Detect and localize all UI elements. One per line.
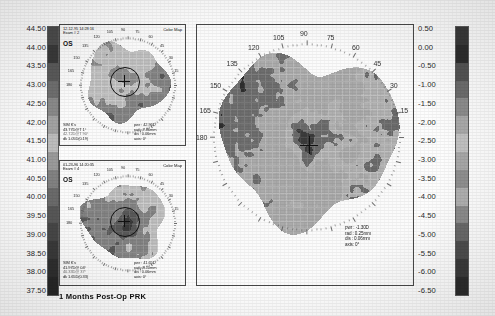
color-swatch bbox=[456, 27, 468, 45]
meridian-label: 165 bbox=[68, 206, 74, 211]
meridian-label: 165 bbox=[200, 107, 211, 114]
readout-axis: axis: 0° bbox=[134, 137, 156, 142]
scale-tick: 44.50 bbox=[14, 24, 46, 33]
left-color-bar bbox=[47, 26, 59, 296]
meridian-tick bbox=[146, 127, 147, 129]
meridian-label: 105 bbox=[107, 167, 113, 172]
meridian-tick bbox=[170, 104, 172, 105]
meridian-tick bbox=[162, 254, 164, 256]
meridian-tick bbox=[83, 68, 85, 69]
scale-tick: 39.50 bbox=[14, 211, 46, 220]
panel-postop-axial-map[interactable]: 01-23-96 14:20:35 Exam # 4 OS Color Map … bbox=[59, 160, 186, 286]
meridian-tick bbox=[111, 179, 112, 181]
meridian-label: 60 bbox=[149, 34, 153, 39]
sim-k-cylinder: dk 1.65D(0.33) bbox=[63, 275, 88, 280]
meridian-tick bbox=[132, 176, 133, 178]
color-swatch bbox=[456, 277, 468, 295]
meridian-tick bbox=[162, 116, 164, 118]
meridian-tick bbox=[106, 181, 107, 183]
meridian-tick bbox=[111, 128, 112, 130]
color-swatch bbox=[48, 170, 58, 188]
panel-difference-map[interactable]: pwr : -1.30D rad : 0.25mm dis : 0.06mm a… bbox=[196, 24, 414, 286]
scale-tick: 38.00 bbox=[14, 267, 46, 276]
meridian-tick bbox=[268, 51, 270, 53]
meridian-label: 60 bbox=[352, 44, 359, 51]
meridian-tick bbox=[399, 142, 401, 143]
meridian-tick bbox=[292, 228, 293, 230]
meridian-label: 180 bbox=[66, 82, 72, 87]
meridian-tick bbox=[83, 206, 85, 207]
meridian-tick bbox=[169, 244, 171, 245]
meridian-tick bbox=[137, 177, 138, 179]
meridian-tick bbox=[81, 216, 83, 217]
meridian-tick bbox=[159, 257, 161, 259]
eye-label: OS bbox=[63, 40, 73, 47]
pupil-circle bbox=[110, 67, 140, 97]
scale-tick: 41.00 bbox=[14, 155, 46, 164]
meridian-tick bbox=[128, 174, 129, 177]
sim-k-cylinder: dk 1.05D(0.19) bbox=[63, 137, 88, 142]
color-swatch bbox=[48, 134, 58, 152]
scale-tick: -6.50 bbox=[418, 286, 450, 295]
meridian-tick bbox=[79, 85, 82, 86]
meridian-tick bbox=[174, 85, 177, 86]
color-swatch bbox=[456, 259, 468, 277]
meridian-tick bbox=[171, 68, 173, 69]
meridian-label: 90 bbox=[121, 27, 125, 32]
meridian-label: 150 bbox=[73, 55, 79, 60]
left-scale-labels: 44.5044.0043.5043.0042.5042.0041.5041.00… bbox=[14, 24, 46, 296]
meridian-tick bbox=[137, 268, 138, 270]
meridian-tick bbox=[128, 36, 129, 39]
meridian-tick bbox=[164, 114, 166, 116]
meridian-label: 45 bbox=[160, 181, 164, 186]
meridian-tick bbox=[171, 206, 173, 207]
color-swatch bbox=[456, 45, 468, 63]
meridian-tick bbox=[132, 131, 133, 133]
sim-k-readout: SIM K's 43.77D@T 1° 42.72D@T 90° dk 1.05… bbox=[63, 123, 88, 141]
scale-tick: 44.00 bbox=[14, 43, 46, 52]
eye-label: OS bbox=[63, 176, 73, 183]
colormap-label: Color Map bbox=[163, 27, 182, 32]
meridian-tick bbox=[174, 82, 176, 83]
color-swatch bbox=[48, 241, 58, 259]
meridian-tick bbox=[214, 122, 216, 123]
scale-tick: 43.50 bbox=[14, 61, 46, 70]
scale-tick: -2.00 bbox=[418, 118, 450, 127]
meridian-tick bbox=[287, 45, 288, 47]
meridian-label: 180 bbox=[66, 220, 72, 225]
meridian-tick bbox=[125, 269, 126, 271]
panel-preop-axial-map[interactable]: 12-12-95 14:28:16 Exam # 2 OS Color Map … bbox=[59, 24, 186, 146]
meridian-tick bbox=[164, 252, 166, 254]
meridian-tick bbox=[173, 95, 175, 96]
meridian-label: 135 bbox=[82, 181, 88, 186]
meridian-tick bbox=[128, 269, 129, 272]
meridian-label: 105 bbox=[273, 34, 284, 41]
meridian-tick bbox=[85, 63, 87, 64]
color-swatch bbox=[456, 241, 468, 259]
meridian-label: 120 bbox=[94, 172, 100, 177]
meridian-tick bbox=[389, 179, 391, 181]
color-swatch bbox=[48, 81, 58, 99]
meridian-tick bbox=[174, 228, 176, 229]
meridian-tick bbox=[213, 142, 215, 143]
readout-axis: axis: 0° bbox=[345, 242, 371, 248]
color-swatch bbox=[456, 81, 468, 99]
meridian-label: 75 bbox=[135, 29, 139, 34]
meridian-label: 165 bbox=[68, 68, 74, 73]
scale-tick: -3.00 bbox=[418, 155, 450, 164]
meridian-tick bbox=[85, 201, 87, 202]
meridian-tick bbox=[348, 219, 350, 221]
meridian-tick bbox=[398, 122, 400, 123]
meridian-tick bbox=[311, 229, 312, 231]
scale-tick: -3.50 bbox=[418, 174, 450, 183]
scale-tick: -1.50 bbox=[418, 99, 450, 108]
meridian-tick bbox=[217, 108, 219, 109]
meridian-tick bbox=[174, 223, 177, 224]
meridian-tick bbox=[111, 41, 112, 43]
color-swatch bbox=[456, 98, 468, 116]
meridian-tick bbox=[81, 233, 83, 234]
color-swatch bbox=[456, 188, 468, 206]
meridian-tick bbox=[80, 220, 82, 221]
meridian-tick bbox=[79, 223, 82, 224]
meridian-tick bbox=[174, 220, 176, 221]
